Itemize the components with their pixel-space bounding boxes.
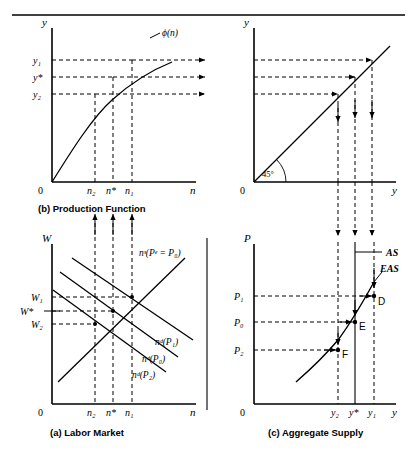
panel-a-xtick-1: n* [106,407,116,418]
labor-demand-label-p0: nᵈ(P₀) [142,354,165,365]
panel-a-xtick-2: n₁ [125,407,133,418]
panel-b-ytick-2: y₂ [32,89,41,100]
angle-label: 45° [262,169,274,179]
labor-demand-label-p1: nᵈ(P₁) [155,337,178,348]
four-panel-diagram: ϕ(n) y n 0 y₁ y* y₂ n₂ n* n₁ (b) Product… [0,0,417,452]
panel-a-y-axis-label: W [42,232,52,244]
phi-leader [150,33,160,38]
panel-a-ytick-2: W₂ [31,319,43,330]
panel-a-xtick-0: n₂ [87,407,96,418]
labor-equilibrium-mid [111,309,115,313]
point-d [372,294,376,298]
labor-equilibrium-high [130,295,134,299]
panel-b-xtick-1: n* [106,185,116,196]
forty-five-degree-line [254,46,390,182]
panel-forty-five-line: 45° y y 0 [240,16,397,236]
panel-b-caption: (b) Production Function [38,203,146,214]
panel-a-ytick-1: W* [20,306,33,317]
labor-demand-curve-p1 [72,258,193,340]
panel-c-xtick-1: y* [348,407,358,418]
labor-demand-label-p2: nᵈ(P₂) [132,370,155,381]
panel-c-xtick-0: y₂ [330,407,339,418]
production-function-curve [52,62,172,182]
panel-a-ytick-0: W₁ [31,292,43,303]
point-label-e: E [359,321,366,332]
panel-production-function: ϕ(n) y n 0 y₁ y* y₂ n₂ n* n₁ (b) Product… [32,16,205,214]
point-label-f: F [342,349,348,360]
angle-arc [277,160,286,182]
panel-b-xtick-0: n₂ [87,185,96,196]
panel-b-y-axis-label: y [41,16,47,28]
panel-c-caption: (c) Aggregate Supply [268,427,364,438]
panel-b-xtick-2: n₁ [125,185,133,196]
panel-c-y-axis-label: P [243,232,251,244]
panel-tr-x-axis-label: y [391,184,397,196]
point-label-d: D [378,296,385,307]
panel-tr-origin: 0 [240,185,245,196]
point-f [336,348,340,352]
point-e [353,320,357,324]
panel-c-xtick-2: y₁ [367,407,376,418]
panel-b-origin: 0 [38,185,43,196]
eas-curve [296,282,374,382]
eas-label: EAS [379,263,399,274]
panel-a-x-axis-label: n [190,406,196,418]
panel-b-x-axis-label: n [190,184,196,196]
labor-supply-curve [58,258,185,382]
economics-figure: ϕ(n) y n 0 y₁ y* y₂ n₂ n* n₁ (b) Product… [0,0,417,452]
panel-aggregate-supply: AS EAS D E F P y 0 P₁ P₀ P₂ y₂ y* y₁ (c)… [233,232,399,438]
panel-c-x-axis-label: y [391,406,397,418]
panel-c-ytick-2: P₂ [233,345,244,356]
panel-labor-market: nˢ(Pᵉ = P₀) nᵈ(P₁) nᵈ(P₀) nᵈ(P₂) W n 0 W… [20,214,196,438]
panel-b-ytick-1: y* [32,72,42,83]
panel-tr-y-axis-label: y [243,16,249,28]
panel-c-origin: 0 [240,407,245,418]
panel-c-ytick-0: P₁ [233,291,244,302]
panel-b-ytick-0: y₁ [32,55,41,66]
panel-a-origin: 0 [38,407,43,418]
panel-c-ytick-1: P₀ [233,317,244,328]
as-label: AS [385,247,399,258]
phi-label: ϕ(n) [162,28,178,39]
labor-supply-label: nˢ(Pᵉ = P₀) [139,248,181,259]
panel-a-caption: (a) Labor Market [50,427,125,438]
labor-equilibrium-low [93,322,97,326]
